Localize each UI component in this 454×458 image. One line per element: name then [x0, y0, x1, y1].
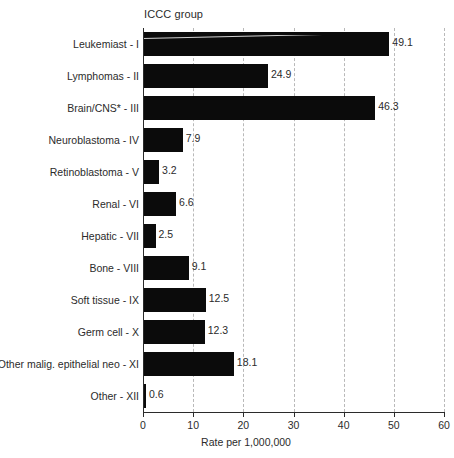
- bar-value-label: 0.6: [149, 388, 164, 400]
- x-axis-tick: [143, 412, 144, 417]
- bar-value-label: 3.2: [162, 164, 177, 176]
- x-axis-tick: [243, 412, 244, 417]
- plot-area: 49.124.946.37.93.26.62.59.112.512.318.10…: [143, 28, 444, 412]
- bar[interactable]: [143, 256, 189, 280]
- category-label: Leukemiast - I: [73, 28, 139, 60]
- bar-slot: 18.1: [143, 348, 444, 380]
- x-axis-tick-label: 60: [438, 419, 450, 431]
- x-axis-tick-label: 40: [338, 419, 350, 431]
- bar-slot: 6.6: [143, 188, 444, 220]
- bar-slot: 9.1: [143, 252, 444, 284]
- bar-value-label: 46.3: [378, 100, 398, 112]
- bar-value-label: 49.1: [392, 36, 412, 48]
- bar[interactable]: [143, 128, 183, 152]
- category-label: Bone - VIII: [89, 252, 139, 284]
- bar[interactable]: [143, 192, 176, 216]
- category-label: Other - XII: [91, 380, 139, 412]
- category-label: Neuroblastoma - IV: [49, 124, 139, 156]
- bar-value-label: 24.9: [271, 68, 291, 80]
- bar-slot: 2.5: [143, 220, 444, 252]
- bar-slot: 12.5: [143, 284, 444, 316]
- x-axis-tick: [344, 412, 345, 417]
- bar-value-label: 7.9: [186, 132, 201, 144]
- chart-title: ICCC group: [144, 8, 203, 20]
- bar-slot: 12.3: [143, 316, 444, 348]
- bar-slot: 24.9: [143, 60, 444, 92]
- bar[interactable]: [143, 224, 156, 248]
- bar[interactable]: [143, 160, 159, 184]
- category-label: Retinoblastoma - V: [50, 156, 139, 188]
- y-axis-line: [143, 28, 144, 413]
- x-axis-tick: [294, 412, 295, 417]
- bar-slot: 46.3: [143, 92, 444, 124]
- bar-value-label: 12.3: [208, 324, 228, 336]
- category-label: Soft tissue - IX: [71, 284, 139, 316]
- category-label: Brain/CNS* - III: [67, 92, 139, 124]
- bar[interactable]: [143, 288, 206, 312]
- x-axis-tick-label: 0: [140, 419, 146, 431]
- x-axis-tick-label: 50: [388, 419, 400, 431]
- bar-value-label: 18.1: [237, 356, 257, 368]
- x-axis-title: Rate per 1,000,000: [0, 436, 454, 448]
- category-label: Hepatic - VII: [81, 220, 139, 252]
- bar[interactable]: [143, 64, 268, 88]
- x-axis-tick: [444, 412, 445, 417]
- bar[interactable]: [143, 352, 234, 376]
- x-axis-tick: [193, 412, 194, 417]
- bar-slot: 49.1: [143, 28, 444, 60]
- bar-chart-figure: ICCC group 49.124.946.37.93.26.62.59.112…: [0, 0, 454, 458]
- x-axis-tick-label: 30: [288, 419, 300, 431]
- bar-value-label: 12.5: [209, 292, 229, 304]
- x-axis-tick-label: 20: [237, 419, 249, 431]
- bar-value-label: 9.1: [192, 260, 207, 272]
- category-label: Lymphomas - II: [67, 60, 139, 92]
- x-axis-tick-label: 10: [187, 419, 199, 431]
- bar-slot: 0.6: [143, 380, 444, 412]
- bar[interactable]: [143, 320, 205, 344]
- x-axis-tick: [394, 412, 395, 417]
- bar-slot: 3.2: [143, 156, 444, 188]
- bar[interactable]: [143, 96, 375, 120]
- bar-slot: 7.9: [143, 124, 444, 156]
- bar-value-label: 6.6: [179, 196, 194, 208]
- gridline: [444, 28, 445, 412]
- category-label: Germ cell - X: [78, 316, 139, 348]
- bar-value-label: 2.5: [159, 228, 174, 240]
- category-label: Renal - VI: [92, 188, 139, 220]
- x-axis-title-text: Rate per 1,000,000: [163, 436, 291, 448]
- category-label: Other malig. epithelial neo - XI: [0, 348, 139, 380]
- bar[interactable]: [143, 32, 389, 56]
